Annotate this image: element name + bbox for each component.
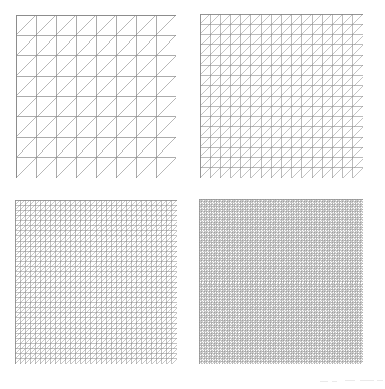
mesh-svg bbox=[15, 200, 177, 364]
scan-artifact-mark bbox=[345, 380, 355, 381]
scan-artifact-mark bbox=[320, 381, 328, 382]
mesh-panel-level-1 bbox=[16, 15, 176, 178]
scan-artifact-mark bbox=[377, 380, 383, 381]
mesh-panel-level-3 bbox=[15, 200, 177, 364]
mesh-panel-level-4 bbox=[199, 199, 363, 364]
scan-artifact-mark bbox=[360, 380, 374, 381]
figure-panel-grid bbox=[0, 0, 385, 389]
mesh-svg bbox=[199, 199, 363, 364]
mesh-svg bbox=[16, 15, 176, 178]
mesh-panel-level-2 bbox=[200, 14, 363, 178]
scan-artifact-mark bbox=[332, 381, 337, 382]
mesh-svg bbox=[200, 14, 363, 178]
